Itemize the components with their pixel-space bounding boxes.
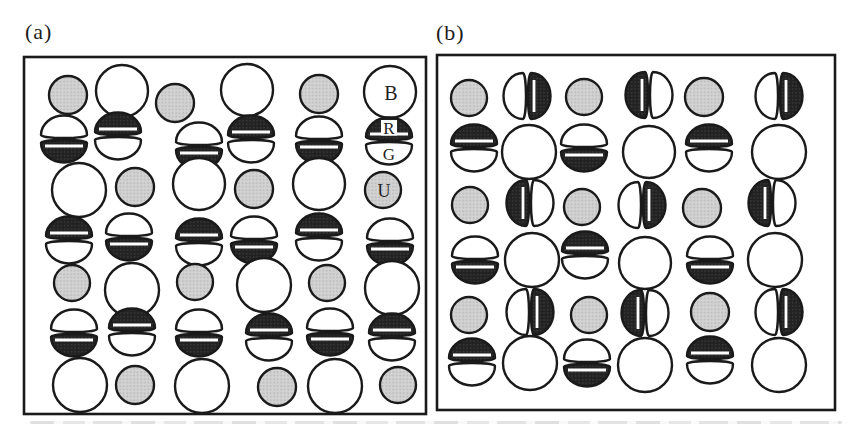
gray-circle (300, 75, 338, 113)
panel-a: BRGU (24, 57, 426, 414)
gray-circle (451, 297, 487, 333)
legend-letter-G: G (383, 145, 395, 164)
big-white-circle (502, 125, 556, 179)
gray-circle (177, 264, 213, 300)
gray-circle (309, 265, 345, 301)
big-white-circle (623, 126, 675, 178)
big-white-circle (752, 125, 806, 179)
gray-circle (49, 76, 87, 114)
legend-letter-B: B (384, 82, 397, 104)
big-white-circle (237, 258, 291, 312)
gray-circle (54, 265, 90, 301)
cropped-caption-remnant (30, 421, 842, 424)
gray-circle (258, 368, 296, 406)
gray-circle (683, 189, 721, 227)
gray-circle (116, 168, 154, 206)
legend-letter-R: R (383, 119, 395, 138)
gray-circle (156, 84, 194, 122)
big-white-circle (619, 237, 671, 289)
gray-circle (380, 367, 416, 403)
gray-circle (691, 293, 729, 331)
gray-circle (566, 79, 602, 115)
gray-circle (571, 297, 607, 333)
big-white-circle (748, 233, 802, 287)
big-white-circle (96, 65, 148, 117)
big-white-circle (53, 358, 107, 412)
figure-canvas: BRGU (0, 0, 856, 436)
gray-circle (116, 366, 154, 404)
big-white-circle (752, 338, 806, 392)
big-white-circle (308, 359, 362, 413)
big-white-circle (52, 163, 106, 217)
figure: (a) (b) BRGU (0, 0, 856, 436)
big-white-circle (175, 359, 229, 413)
gray-circle (452, 187, 488, 223)
big-white-circle (221, 64, 273, 116)
gray-circle (564, 189, 600, 225)
legend-letter-U: U (378, 181, 391, 201)
big-white-circle (173, 158, 225, 210)
gray-circle: U (365, 172, 401, 208)
big-white-circle (293, 158, 345, 210)
big-white-circle (618, 338, 672, 392)
big-white-circle (503, 336, 557, 390)
gray-circle (685, 78, 723, 116)
big-white-circle: B (364, 66, 416, 118)
gray-circle (235, 170, 273, 208)
gray-circle (451, 80, 487, 116)
big-white-circle (505, 233, 559, 287)
big-white-circle (365, 261, 419, 315)
panel-b (437, 55, 835, 410)
